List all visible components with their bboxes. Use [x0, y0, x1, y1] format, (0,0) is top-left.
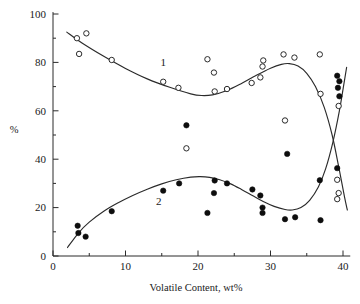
- data-point: [337, 79, 342, 84]
- x-tick-label: 40: [338, 260, 350, 272]
- x-tick-label: 0: [50, 260, 56, 272]
- data-point: [281, 52, 286, 57]
- data-point: [318, 217, 323, 222]
- data-point: [318, 91, 323, 96]
- axes: [53, 12, 350, 256]
- data-point: [335, 165, 340, 170]
- data-point: [250, 187, 255, 192]
- data-point: [258, 75, 263, 80]
- data-point: [258, 193, 263, 198]
- data-point: [249, 80, 254, 85]
- data-point: [292, 55, 297, 60]
- data-point: [76, 51, 81, 56]
- x-axis-title: Volatile Content, wt%: [150, 282, 243, 293]
- y-tick-label: 80: [35, 56, 47, 68]
- data-point: [317, 178, 322, 183]
- data-point: [335, 85, 340, 90]
- data-point: [184, 146, 189, 151]
- x-tick-label: 30: [265, 260, 277, 272]
- data-point: [84, 31, 89, 36]
- series-1-points: [74, 31, 341, 202]
- x-tick-label: 20: [193, 260, 205, 272]
- data-point: [317, 52, 322, 57]
- data-point: [282, 118, 287, 123]
- data-point: [224, 181, 229, 186]
- data-point: [284, 151, 289, 156]
- scatter-plot: 010203040 020406080100 12 Volatile Conte…: [0, 0, 360, 304]
- data-point: [336, 190, 341, 195]
- y-tick-label: 100: [30, 8, 47, 20]
- data-point: [176, 85, 181, 90]
- data-point: [161, 188, 166, 193]
- data-point: [109, 57, 114, 62]
- y-axis-title: %: [10, 124, 19, 135]
- y-tick-label: 40: [35, 153, 47, 165]
- data-point: [335, 196, 340, 201]
- data-point: [261, 58, 266, 63]
- data-point: [212, 89, 217, 94]
- data-point: [335, 177, 340, 182]
- data-point: [74, 36, 79, 41]
- y-tick-label: 20: [35, 201, 47, 213]
- data-point: [205, 210, 210, 215]
- data-point: [75, 223, 80, 228]
- curve-1-label: 1: [160, 56, 166, 68]
- data-point: [211, 190, 216, 195]
- data-point: [336, 103, 341, 108]
- series-2-points: [75, 73, 342, 239]
- data-point: [176, 181, 181, 186]
- data-point: [260, 210, 265, 215]
- data-point: [205, 57, 210, 62]
- data-point: [292, 215, 297, 220]
- chart-container: 010203040 020406080100 12 Volatile Conte…: [0, 0, 360, 304]
- data-point: [76, 230, 81, 235]
- curve-2: [68, 67, 347, 247]
- data-point: [184, 123, 189, 128]
- data-point: [337, 94, 342, 99]
- data-point: [109, 209, 114, 214]
- data-point: [161, 79, 166, 84]
- y-tick-labels: 020406080100: [30, 8, 47, 262]
- data-point: [224, 86, 229, 91]
- curve-2-label: 2: [156, 195, 162, 207]
- data-point: [260, 205, 265, 210]
- tick-marks: [53, 14, 343, 256]
- data-point: [335, 73, 340, 78]
- data-point: [211, 70, 216, 75]
- y-tick-label: 0: [41, 250, 47, 262]
- y-tick-label: 60: [35, 105, 47, 117]
- data-point: [282, 217, 287, 222]
- x-tick-label: 10: [120, 260, 132, 272]
- data-point: [212, 178, 217, 183]
- x-tick-labels: 010203040: [50, 260, 349, 272]
- data-point: [260, 64, 265, 69]
- data-point: [83, 234, 88, 239]
